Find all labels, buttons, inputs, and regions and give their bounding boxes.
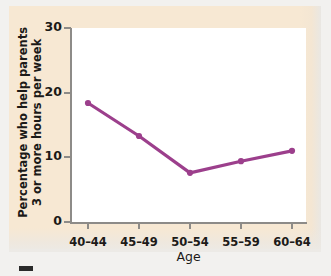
figure-container: 0102030 40–4445–4950–5455–5960–64 Percen…	[0, 0, 331, 276]
series-marker	[187, 170, 193, 176]
series-marker	[85, 100, 91, 106]
caption-marker	[19, 266, 33, 271]
series-marker	[238, 158, 244, 164]
series-layer	[0, 0, 331, 276]
series-line	[88, 103, 292, 173]
series-marker	[136, 133, 142, 139]
series-marker	[289, 148, 295, 154]
series-markers	[85, 100, 295, 176]
